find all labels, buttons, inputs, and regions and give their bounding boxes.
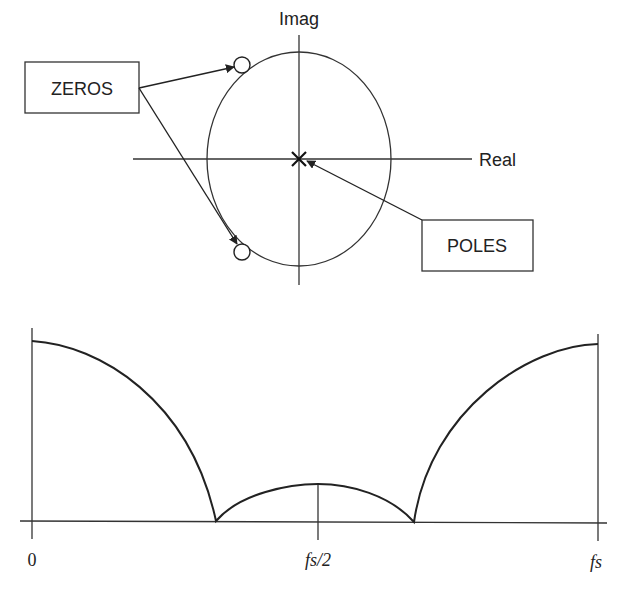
real-axis-label: Real [479, 150, 516, 170]
x-tick-fs: fs [590, 552, 602, 572]
zero-marker-lower [234, 244, 250, 260]
x-tick-zero: 0 [28, 550, 37, 570]
zero-marker-upper [234, 57, 250, 73]
imag-axis-label: Imag [279, 9, 319, 29]
frequency-axis [20, 521, 607, 523]
zeros-arrow-lower [139, 88, 237, 244]
x-tick-half-fs: fs/2 [305, 550, 331, 570]
zeros-arrow-upper [139, 67, 234, 88]
magnitude-response-curve [32, 341, 598, 522]
frequency-response-plot [20, 328, 607, 541]
poles-callout-label: POLES [447, 236, 507, 256]
zeros-callout-label: ZEROS [51, 79, 113, 99]
poles-arrow [307, 161, 422, 220]
diagram-canvas: Imag Real ZEROS POLES 0 fs/2 fs [0, 0, 618, 599]
